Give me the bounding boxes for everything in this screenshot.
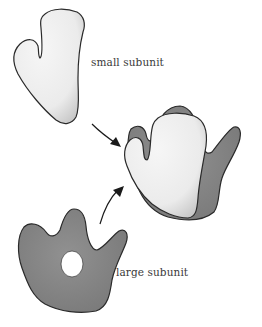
arrow-large-to-assembled	[100, 186, 124, 224]
assembled-ribosome	[125, 106, 241, 220]
label-large-subunit: large subunit	[116, 266, 188, 278]
small-subunit-shape	[14, 9, 85, 123]
arrow-small-to-assembled	[92, 124, 121, 147]
large-subunit-shape	[18, 209, 127, 312]
label-small-subunit: small subunit	[91, 56, 164, 68]
subunit-hole	[61, 251, 83, 277]
